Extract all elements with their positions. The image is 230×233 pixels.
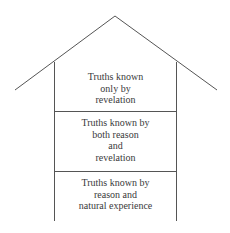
section-text-line: natural experience [55,200,176,212]
section-text-line: Truths known by [55,177,176,189]
section-text-line: both reason [55,129,176,141]
section-text-line: revelation [55,94,176,106]
section-text-line: revelation [55,152,176,164]
section-text-line: Truths known [55,71,176,83]
section-reason-and-revelation: Truths known by both reason and revelati… [55,117,176,163]
section-reason-and-experience: Truths known by reason and natural exper… [55,177,176,212]
section-revelation-only: Truths known only by revelation [55,71,176,106]
section-text-line: only by [55,83,176,95]
section-text-line: and [55,140,176,152]
section-text-line: reason and [55,189,176,201]
section-text-line: Truths known by [55,117,176,129]
